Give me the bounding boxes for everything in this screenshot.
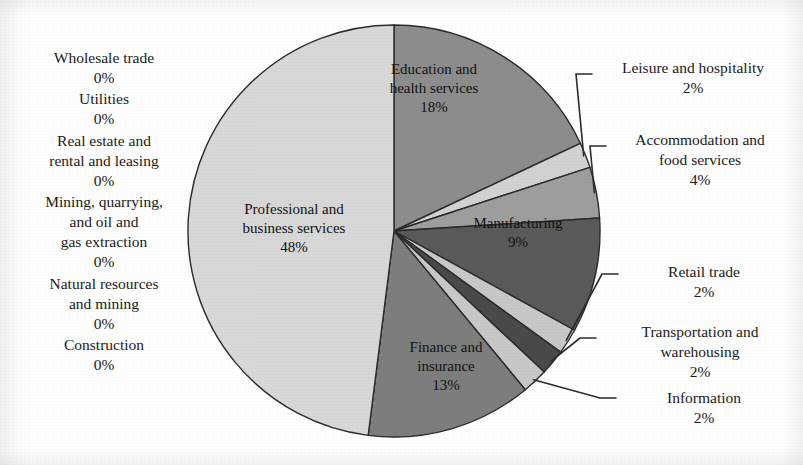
pie-chart-figure: Wholesale trade 0% Utilities 0% Real est… — [0, 0, 803, 465]
label-construction: Construction 0% — [8, 335, 200, 375]
label-wholesale-trade-value: 0% — [8, 68, 200, 88]
label-mining-name-line3: gas extraction — [8, 232, 200, 252]
label-mining-name-line2: and oil and — [8, 212, 200, 232]
label-construction-value: 0% — [8, 355, 200, 375]
label-natural-resources-value: 0% — [8, 314, 200, 334]
callout-transportation-warehousing: Transportation and warehousing 2% — [600, 322, 800, 382]
label-natural-resources-name-line1: Natural resources — [8, 274, 200, 294]
label-wholesale-trade-name: Wholesale trade — [8, 48, 200, 68]
zero-percent-label-column: Wholesale trade 0% Utilities 0% Real est… — [8, 48, 200, 376]
callout-accommodation-name-line1: Accommodation and — [600, 130, 800, 150]
label-mining-value: 0% — [8, 252, 200, 272]
label-real-estate-name-line1: Real estate and — [8, 131, 200, 151]
label-natural-resources-mining: Natural resources and mining 0% — [8, 274, 200, 334]
callout-information-name: Information — [612, 388, 796, 408]
leader-line-information — [534, 380, 616, 398]
label-real-estate-name-line2: rental and leasing — [8, 151, 200, 171]
callout-retail-value: 2% — [614, 282, 794, 302]
label-real-estate: Real estate and rental and leasing 0% — [8, 131, 200, 191]
callout-retail-trade: Retail trade 2% — [614, 262, 794, 302]
callout-information-value: 2% — [612, 408, 796, 428]
callout-information: Information 2% — [612, 388, 796, 428]
callout-accommodation-name-line2: food services — [600, 150, 800, 170]
label-utilities-name: Utilities — [8, 89, 200, 109]
label-mining-name-line1: Mining, quarrying, — [8, 192, 200, 212]
pie-slice-professional[interactable] — [188, 25, 394, 435]
callout-transportation-name-line2: warehousing — [600, 342, 800, 362]
pie-slices-group — [188, 25, 600, 437]
label-natural-resources-name-line2: and mining — [8, 294, 200, 314]
label-real-estate-value: 0% — [8, 171, 200, 191]
callout-leisure-and-hospitality: Leisure and hospitality 2% — [586, 58, 800, 98]
callout-transportation-name-line1: Transportation and — [600, 322, 800, 342]
label-utilities-value: 0% — [8, 109, 200, 129]
callout-accommodation-value: 4% — [600, 170, 800, 190]
label-mining-quarrying-oil-gas: Mining, quarrying, and oil and gas extra… — [8, 192, 200, 273]
callout-retail-name: Retail trade — [614, 262, 794, 282]
callout-transportation-value: 2% — [600, 362, 800, 382]
callout-leisure-name: Leisure and hospitality — [586, 58, 800, 78]
label-construction-name: Construction — [8, 335, 200, 355]
callout-accommodation-food-services: Accommodation and food services 4% — [600, 130, 800, 190]
callout-leisure-value: 2% — [586, 78, 800, 98]
label-wholesale-trade: Wholesale trade 0% — [8, 48, 200, 88]
label-utilities: Utilities 0% — [8, 89, 200, 129]
